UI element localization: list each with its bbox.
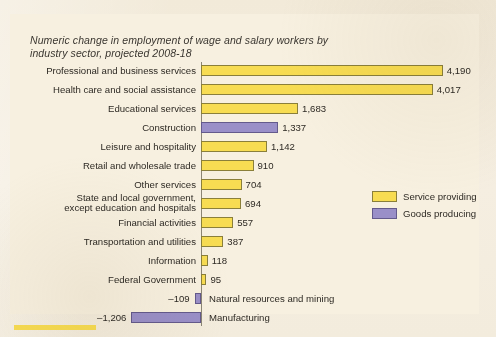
bar-row: Transportation and utilities387 — [20, 233, 489, 252]
category-label: State and local government, except educa… — [0, 193, 196, 213]
bar — [201, 84, 433, 95]
footer-accent-bar — [14, 325, 96, 330]
category-label: Other services — [0, 180, 196, 191]
bar-row: Construction1,337 — [20, 119, 489, 138]
bar-row: Leisure and hospitality1,142 — [20, 138, 489, 157]
bar — [201, 179, 242, 190]
bar — [201, 198, 241, 209]
bar-row: Professional and business services4,190 — [20, 62, 489, 81]
bar-row: Health care and social assistance4,017 — [20, 81, 489, 100]
category-label: Financial activities — [0, 218, 196, 229]
value-label: 1,142 — [271, 141, 295, 153]
legend-swatch-service — [372, 191, 397, 202]
category-label: Federal Government — [0, 275, 196, 286]
bar — [201, 122, 278, 133]
category-label: Natural resources and mining — [209, 294, 459, 305]
value-label: 910 — [258, 160, 274, 172]
legend-item: Service providing — [372, 190, 490, 203]
legend-item: Goods producing — [372, 207, 490, 220]
category-label: Transportation and utilities — [0, 237, 196, 248]
value-label: 4,017 — [437, 84, 461, 96]
value-label: 4,190 — [447, 65, 471, 77]
category-label: Construction — [0, 123, 196, 134]
category-label: Professional and business services — [0, 66, 196, 77]
value-label: –109 — [20, 293, 190, 305]
legend-label: Goods producing — [403, 208, 476, 219]
legend-label: Service providing — [403, 191, 477, 202]
bar-row: Federal Government95 — [20, 271, 489, 290]
bar — [201, 236, 223, 247]
chart-title: Numeric change in employment of wage and… — [30, 34, 360, 60]
category-label: Health care and social assistance — [0, 85, 196, 96]
value-label: 557 — [237, 217, 253, 229]
bar — [201, 160, 254, 171]
bar — [201, 141, 267, 152]
value-label: 694 — [245, 198, 261, 210]
value-label: 118 — [212, 255, 227, 267]
category-label: Leisure and hospitality — [0, 142, 196, 153]
value-label: 1,337 — [282, 122, 306, 134]
bar-row: Retail and wholesale trade910 — [20, 157, 489, 176]
value-label: 1,683 — [302, 103, 326, 115]
category-label: Educational services — [0, 104, 196, 115]
bar — [201, 217, 233, 228]
bar-row: Educational services1,683 — [20, 100, 489, 119]
bar — [195, 293, 201, 304]
category-label: Manufacturing — [209, 313, 459, 324]
bar-row: Information118 — [20, 252, 489, 271]
plot-area: Professional and business services4,190H… — [20, 62, 489, 328]
category-label: Retail and wholesale trade — [0, 161, 196, 172]
bar-row: Natural resources and mining–109 — [20, 290, 489, 309]
chart-panel: Numeric change in employment of wage and… — [10, 14, 479, 314]
value-label: –1,206 — [20, 312, 126, 324]
legend-swatch-goods — [372, 208, 397, 219]
bar — [201, 65, 443, 76]
bar — [131, 312, 201, 323]
bar — [201, 255, 208, 266]
value-label: 387 — [227, 236, 243, 248]
bar — [201, 103, 298, 114]
bar — [201, 274, 206, 285]
value-label: 95 — [210, 274, 221, 286]
value-label: 704 — [246, 179, 262, 191]
chart-legend: Service providingGoods producing — [372, 190, 490, 224]
category-label: Information — [0, 256, 196, 267]
